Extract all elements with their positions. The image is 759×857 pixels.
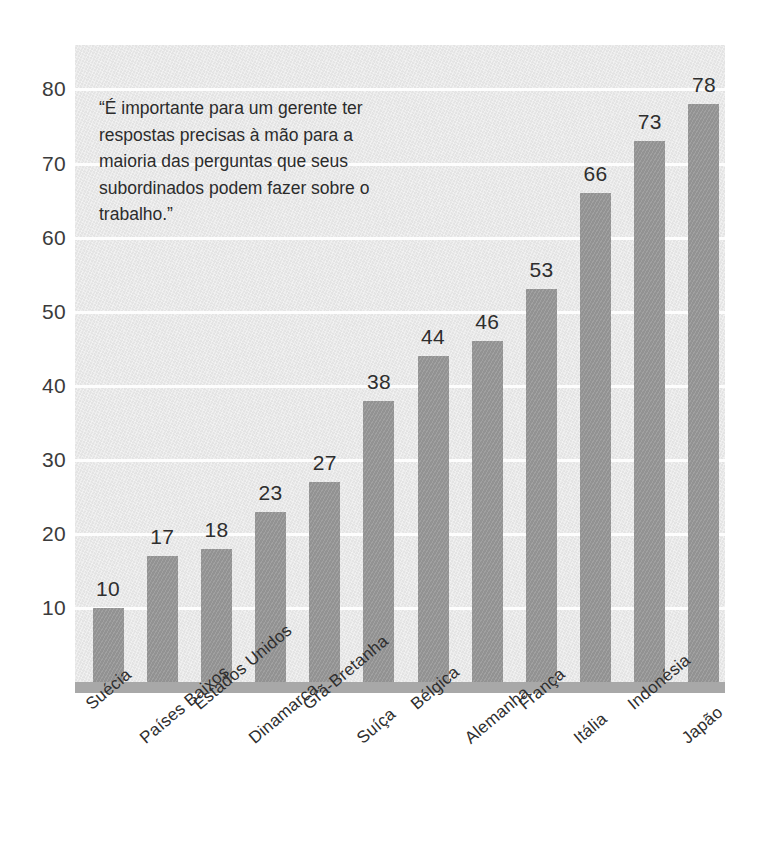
bar-value-label: 10 xyxy=(73,577,143,601)
x-axis-baseline xyxy=(75,682,725,693)
y-tick-label-50: 50 xyxy=(10,300,66,324)
gridline-80 xyxy=(75,88,725,91)
bar xyxy=(418,356,449,682)
y-tick-label-10: 10 xyxy=(10,596,66,620)
x-axis-label: Japão xyxy=(678,703,727,749)
bar-value-label: 46 xyxy=(452,310,522,334)
y-axis: 1020304050607080 xyxy=(0,45,66,682)
bar xyxy=(580,193,611,682)
x-axis-labels: SuéciaPaíses BaixosEstados UnidosDinamar… xyxy=(0,693,759,857)
bar-value-label: 53 xyxy=(506,258,576,282)
y-tick-label-60: 60 xyxy=(10,226,66,250)
y-tick-label-70: 70 xyxy=(10,152,66,176)
y-tick-label-20: 20 xyxy=(10,522,66,546)
gridline-50 xyxy=(75,311,725,314)
bar xyxy=(634,141,665,682)
bar xyxy=(309,482,340,682)
bar xyxy=(147,556,178,682)
x-axis-label: Suíça xyxy=(353,704,400,748)
bar-value-label: 38 xyxy=(344,370,414,394)
y-tick-label-80: 80 xyxy=(10,77,66,101)
bar-value-label: 73 xyxy=(615,110,685,134)
bar xyxy=(688,104,719,682)
bar-value-label: 78 xyxy=(669,73,739,97)
gridline-60 xyxy=(75,237,725,240)
bar xyxy=(472,341,503,682)
annotation-quote: “É importante para um gerente ter respos… xyxy=(99,95,399,228)
bar xyxy=(201,549,232,682)
bar-value-label: 66 xyxy=(561,162,631,186)
bar xyxy=(526,289,557,682)
y-tick-label-40: 40 xyxy=(10,374,66,398)
bar-value-label: 27 xyxy=(290,451,360,475)
x-axis-label: Itália xyxy=(570,709,611,748)
gridline-30 xyxy=(75,459,725,462)
plot-area: 101718232738444653667378 “É importante p… xyxy=(75,45,725,682)
bar-value-label: 18 xyxy=(181,518,251,542)
bar-chart: 101718232738444653667378 “É importante p… xyxy=(0,0,759,857)
y-tick-label-30: 30 xyxy=(10,448,66,472)
bar-value-label: 23 xyxy=(236,481,306,505)
